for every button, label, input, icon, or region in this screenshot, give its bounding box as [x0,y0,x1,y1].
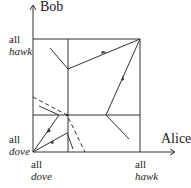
y-top-label-all: all [9,33,20,45]
x-right-label-all: all [135,158,146,170]
separatrix-dashed [33,97,85,152]
x-left-label-dove: dove [31,170,52,182]
trajectory [106,115,129,139]
y-axis-title: Bob [40,1,63,13]
x-left-label-all: all [31,158,42,170]
equilibrium-point [66,114,69,117]
y-bottom-label-dove: dove [9,145,30,157]
x-axis-title: Alice [161,133,191,145]
phase-diagram [0,0,191,188]
trajectory [68,39,140,69]
y-bottom-label-all: all [9,133,20,145]
trajectory [39,106,59,115]
y-top-label-hawk: hawk [9,45,32,57]
trajectory [33,133,67,152]
trajectory [33,115,59,152]
x-right-label-hawk: hawk [135,170,158,182]
trajectory [50,48,68,69]
